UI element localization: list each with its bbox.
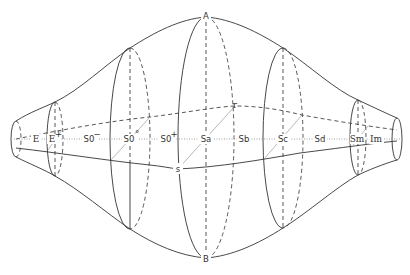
sequence-label-s0-plus: S0 + xyxy=(159,129,178,144)
svg-text:Sd: Sd xyxy=(315,134,326,144)
svg-text:Im: Im xyxy=(370,134,383,144)
galaxy-classification-diagram: A B r s E E + S0 − S0 ° S0 + Sa Sb Sc xyxy=(0,0,410,275)
envelope-bottom xyxy=(16,157,397,258)
svg-text:+: + xyxy=(170,129,177,139)
sequence-label-e: E xyxy=(31,134,41,144)
svg-text:S0: S0 xyxy=(124,134,135,144)
sequence-label-s0-minus: S0 − xyxy=(82,129,101,144)
sequence-label-sc: Sc xyxy=(276,134,290,144)
sequence-label-sd: Sd xyxy=(313,134,327,144)
svg-text:−: − xyxy=(93,129,100,139)
sequence-label-e-plus: E + xyxy=(47,129,62,144)
svg-text:+: + xyxy=(55,129,63,139)
svg-text:Sb: Sb xyxy=(239,134,250,144)
sequence-label-im: Im xyxy=(369,134,384,144)
pole-label-b: B xyxy=(203,254,209,264)
svg-text:°: ° xyxy=(135,129,139,139)
sequence-label-sb: Sb xyxy=(237,134,251,144)
point-label-s: s xyxy=(176,164,181,174)
svg-text:E: E xyxy=(33,134,40,144)
point-label-r: r xyxy=(233,100,238,110)
sequence-label-s0-zero: S0 ° xyxy=(122,129,139,144)
svg-text:Sa: Sa xyxy=(201,134,212,144)
sequence-label-sa: Sa xyxy=(199,134,213,144)
envelope-top xyxy=(16,17,397,121)
svg-text:Sc: Sc xyxy=(278,134,288,144)
front-solid-line xyxy=(16,141,397,169)
pole-label-a: A xyxy=(203,11,209,21)
svg-text:Sm: Sm xyxy=(350,134,365,144)
sequence-label-sm: Sm xyxy=(350,134,365,144)
